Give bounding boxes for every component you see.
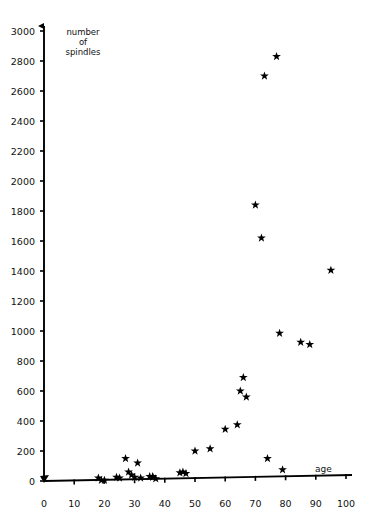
x-tick-label: 10 (68, 498, 80, 509)
data-point-star (260, 71, 269, 79)
x-tick-label: 80 (280, 498, 292, 509)
y-tick-label: 1800 (11, 206, 35, 217)
data-point-star (136, 473, 145, 481)
y-tick-label: 200 (17, 446, 35, 457)
data-point-star (275, 329, 284, 337)
axes-group (40, 26, 352, 483)
x-tick-label: 70 (249, 498, 261, 509)
data-point-star (233, 420, 242, 428)
y-tick-label: 3000 (11, 26, 35, 37)
y-tick-label: 0 (29, 476, 35, 487)
data-point-star (242, 392, 251, 400)
data-point-star (206, 444, 215, 452)
data-point-star (305, 340, 314, 348)
x-axis-line (44, 475, 352, 481)
data-point-star (272, 52, 281, 60)
data-point-star (133, 458, 142, 466)
x-tick-label: 100 (337, 498, 355, 509)
data-point-star (191, 446, 200, 454)
y-tick-label: 1400 (11, 266, 35, 277)
tick-marks-group (40, 31, 346, 484)
data-point-star (257, 233, 266, 241)
data-point-star (239, 373, 248, 381)
data-point-star (278, 465, 287, 473)
x-tick-label: 0 (41, 498, 47, 509)
data-point-star (221, 425, 230, 433)
x-tick-label: 20 (98, 498, 110, 509)
y-tick-label: 2000 (11, 176, 35, 187)
x-axis-label: age (315, 464, 332, 474)
y-axis-label-line-3: spindles (52, 47, 114, 57)
scatter-plot-figure: 0200400600800100012001400160018002000220… (0, 0, 365, 523)
data-points-group (94, 52, 335, 484)
data-point-star (327, 266, 336, 274)
data-point-star (263, 454, 272, 462)
y-tick-label: 1600 (11, 236, 35, 247)
y-tick-label: 2200 (11, 146, 35, 157)
y-tick-label: 600 (17, 386, 35, 397)
y-tick-label: 800 (17, 356, 35, 367)
y-axis-label-line-1: number (52, 27, 114, 37)
y-axis-label: number of spindles (52, 27, 114, 57)
x-tick-label: 40 (159, 498, 171, 509)
y-tick-label: 1200 (11, 296, 35, 307)
y-axis-label-line-2: of (52, 37, 114, 47)
data-point-star (251, 200, 260, 208)
x-tick-label: 90 (310, 498, 322, 509)
data-point-star (121, 454, 130, 462)
x-tick-label: 50 (189, 498, 201, 509)
y-tick-label: 400 (17, 416, 35, 427)
y-tick-label: 2800 (11, 56, 35, 67)
y-tick-label: 2400 (11, 116, 35, 127)
data-point-star (296, 338, 305, 346)
y-tick-label: 2600 (11, 86, 35, 97)
y-tick-label: 1000 (11, 326, 35, 337)
tick-labels-group: 0200400600800100012001400160018002000220… (11, 26, 355, 510)
data-point-star (236, 386, 245, 394)
plot-canvas: 0200400600800100012001400160018002000220… (0, 0, 365, 523)
x-tick-label: 30 (129, 498, 141, 509)
x-tick-label: 60 (219, 498, 231, 509)
